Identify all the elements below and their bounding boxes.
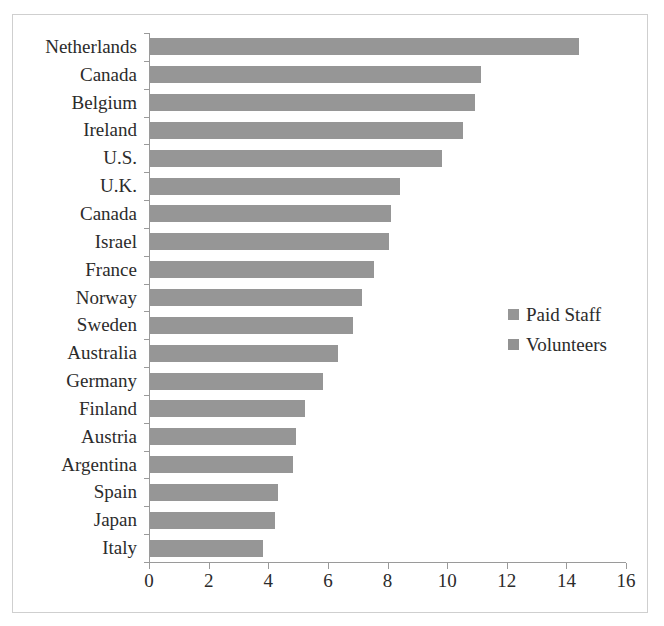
value-tick-label: 10 [427, 571, 467, 590]
value-tick [388, 563, 389, 569]
category-tick [144, 144, 149, 145]
bar [150, 373, 323, 390]
bar-row [150, 172, 400, 200]
chart-legend: Paid StaffVolunteers [508, 299, 648, 359]
bar-row [150, 228, 389, 256]
bar-row [150, 367, 323, 395]
bar [150, 484, 278, 501]
bar [150, 94, 475, 111]
bar [150, 317, 353, 334]
category-label: Italy [13, 538, 137, 557]
legend-swatch-icon [508, 309, 519, 320]
value-tick-label: 2 [189, 571, 229, 590]
category-tick [144, 478, 149, 479]
bar-row [150, 284, 362, 312]
category-tick [144, 339, 149, 340]
value-axis-labels: 0246810121416 [149, 571, 626, 601]
category-tick [144, 451, 149, 452]
bar [150, 205, 391, 222]
category-label: France [13, 260, 137, 279]
category-axis-labels: NetherlandsCanadaBelgiumIrelandU.S.U.K.C… [13, 33, 141, 562]
bar [150, 540, 263, 557]
value-tick-label: 14 [546, 571, 586, 590]
category-tick [144, 506, 149, 507]
value-tick-label: 6 [308, 571, 348, 590]
value-tick [328, 563, 329, 569]
category-label: Austria [13, 427, 137, 446]
bar [150, 233, 389, 250]
legend-item[interactable]: Paid Staff [508, 299, 648, 329]
bar [150, 122, 463, 139]
value-tick-label: 12 [487, 571, 527, 590]
value-tick-label: 4 [248, 571, 288, 590]
category-label: Japan [13, 510, 137, 529]
category-tick [144, 172, 149, 173]
legend-label: Paid Staff [526, 305, 601, 324]
chart-frame: NetherlandsCanadaBelgiumIrelandU.S.U.K.C… [12, 14, 648, 613]
bar-row [150, 89, 475, 117]
category-tick [144, 200, 149, 201]
value-tick-label: 8 [368, 571, 408, 590]
category-tick [144, 89, 149, 90]
legend-item[interactable]: Volunteers [508, 329, 648, 359]
bar-row [150, 451, 293, 479]
bar [150, 261, 374, 278]
bar [150, 345, 338, 362]
category-label: Finland [13, 399, 137, 418]
category-label: Argentina [13, 455, 137, 474]
category-label: Israel [13, 232, 137, 251]
category-tick [144, 117, 149, 118]
category-tick [144, 367, 149, 368]
bar [150, 512, 275, 529]
bar-row [150, 200, 391, 228]
legend-swatch-icon [508, 339, 519, 350]
bar [150, 289, 362, 306]
bar-row [150, 256, 374, 284]
category-label: Australia [13, 343, 137, 362]
bar-row [150, 144, 442, 172]
bar [150, 428, 296, 445]
category-tick [144, 228, 149, 229]
bar-row [150, 117, 463, 145]
plot-area [149, 33, 626, 562]
category-label: Spain [13, 482, 137, 501]
category-tick [144, 256, 149, 257]
bar [150, 38, 579, 55]
value-tick [149, 563, 150, 569]
category-label: Canada [13, 204, 137, 223]
category-label: Sweden [13, 315, 137, 334]
bar-row [150, 311, 353, 339]
category-tick [144, 61, 149, 62]
value-tick [566, 563, 567, 569]
category-tick [144, 311, 149, 312]
category-label: Canada [13, 65, 137, 84]
value-tick [268, 563, 269, 569]
value-tick [447, 563, 448, 569]
category-tick [144, 284, 149, 285]
value-tick [209, 563, 210, 569]
bar-row [150, 33, 579, 61]
category-label: U.K. [13, 176, 137, 195]
category-tick [144, 423, 149, 424]
bar-row [150, 506, 275, 534]
category-label: U.S. [13, 148, 137, 167]
bar-row [150, 61, 481, 89]
bar [150, 456, 293, 473]
category-label: Norway [13, 288, 137, 307]
category-tick [144, 33, 149, 34]
legend-label: Volunteers [526, 335, 607, 354]
category-label: Belgium [13, 93, 137, 112]
value-tick-label: 0 [129, 571, 169, 590]
bar-row [150, 423, 296, 451]
category-tick [144, 395, 149, 396]
bar [150, 66, 481, 83]
category-label: Netherlands [13, 37, 137, 56]
value-tick-label: 16 [606, 571, 646, 590]
bar-row [150, 395, 305, 423]
bar-row [150, 339, 338, 367]
bar [150, 150, 442, 167]
bar-row [150, 478, 278, 506]
category-label: Ireland [13, 120, 137, 139]
category-tick [144, 534, 149, 535]
category-label: Germany [13, 371, 137, 390]
